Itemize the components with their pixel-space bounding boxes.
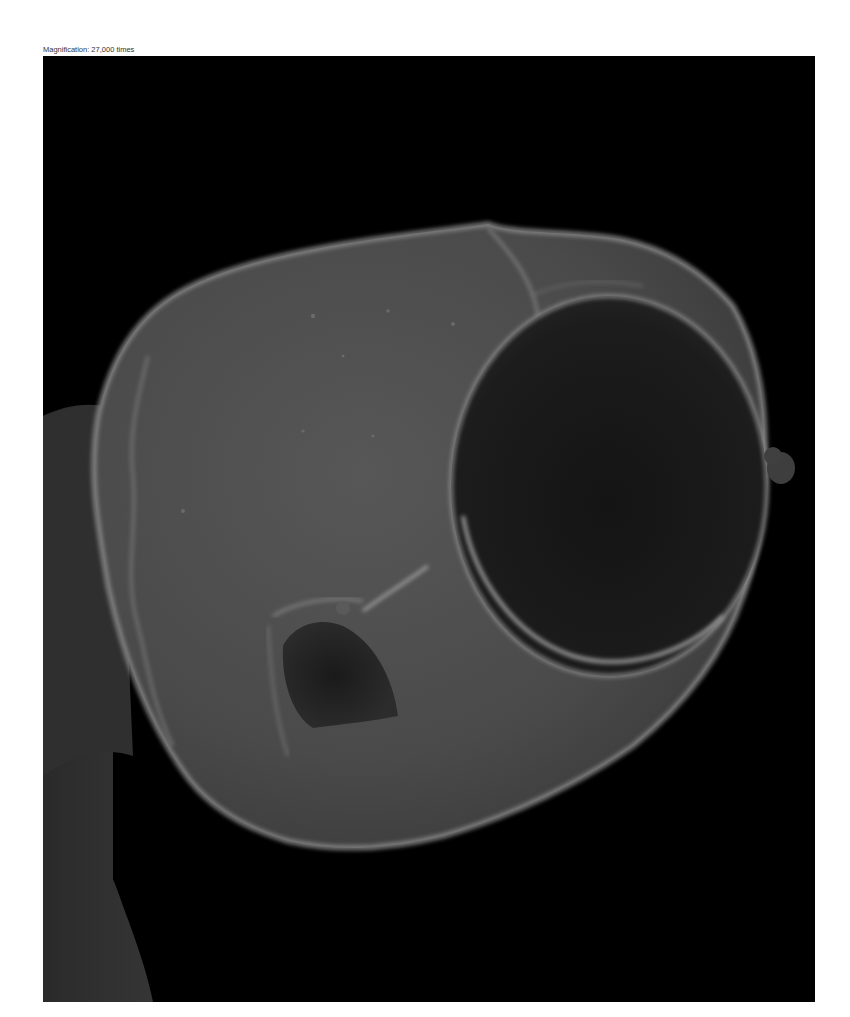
magnification-caption: Magnification: 27,000 times [43, 45, 134, 55]
sem-micrograph [43, 56, 815, 1002]
micrograph-svg [43, 56, 815, 1002]
